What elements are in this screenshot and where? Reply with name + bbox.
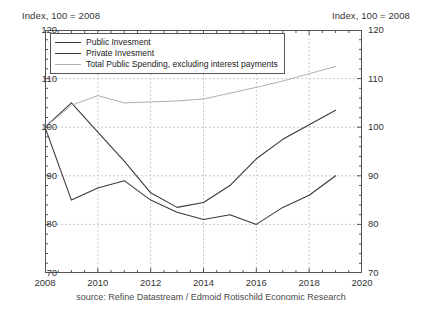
y-axis-right-title: Index, 100 = 2008 [332,10,410,21]
data-series-layer [45,66,336,224]
x-axis-tick-label: 2008 [34,277,55,288]
y-axis-tick-label: 110 [42,73,57,84]
y-axis-tick-label: 100 [368,121,384,132]
x-axis-tick-label: 2014 [193,277,214,288]
y-axis-tick-label: 90 [368,170,379,181]
legend-label: Public Invesment [86,37,151,48]
legend-item: Private Invesment [55,48,278,59]
series-line [45,66,336,127]
legend-label: Total Public Spending, excluding interes… [86,59,278,70]
legend-label: Private Invesment [86,48,154,59]
x-axis-tick-label: 2012 [140,277,161,288]
y-axis-tick-label: 90 [46,170,57,181]
y-axis-tick-label: 80 [368,218,379,229]
y-axis-left-title: Index, 100 = 2008 [22,10,100,21]
x-axis-tick-label: 2018 [299,277,320,288]
x-axis-tick-label: 2020 [351,277,372,288]
chart-legend: Public InvesmentPrivate InvesmentTotal P… [50,33,285,74]
y-axis-tick-label: 120 [368,24,384,35]
legend-item: Total Public Spending, excluding interes… [55,59,278,70]
y-axis-tick-label: 80 [46,218,57,229]
legend-swatch-icon [55,53,81,54]
x-axis-tick-label: 2016 [246,277,267,288]
legend-item: Public Invesment [55,37,278,48]
source-caption: source: Refine Datastream / Edmoid Rotis… [0,292,422,302]
x-axis-tick-label: 2010 [87,277,108,288]
legend-swatch-icon [55,42,81,43]
y-axis-tick-label: 100 [41,121,57,132]
legend-swatch-icon [55,64,81,65]
chart-root: Index, 100 = 2008 Index, 100 = 2008 7080… [0,0,422,314]
y-axis-tick-label: 110 [368,73,383,84]
